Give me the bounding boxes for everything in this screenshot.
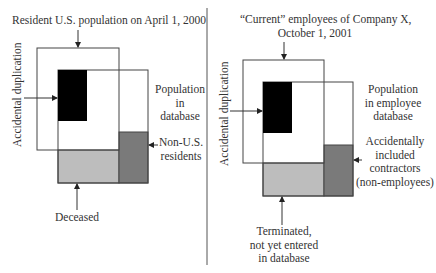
right-title: “Current” employees of Company X, Octobe… — [240, 13, 390, 40]
right-diagram — [230, 42, 362, 225]
left-nonus-label: Non-U.S. residents — [157, 136, 205, 163]
left-diagram — [24, 30, 158, 210]
left-deceased-label: Deceased — [52, 211, 102, 225]
right-light-gray-block — [263, 163, 324, 196]
left-dark-gray-block — [119, 132, 148, 183]
left-black-block — [58, 70, 87, 121]
left-title: Resident U.S. population on April 1, 200… — [12, 14, 206, 28]
left-side-label: Accidental duplication — [11, 43, 23, 147]
right-side-label: Accidental duplication — [218, 62, 230, 166]
left-database-label: Population in database — [155, 83, 205, 124]
right-dark-gray-block — [324, 145, 353, 196]
right-terminated-label: Terminated, not yet entered in database — [244, 225, 324, 266]
right-black-block — [263, 82, 292, 133]
right-database-label: Population in employee database — [358, 83, 428, 124]
right-contractors-label: Accidentally included contractors (non-e… — [355, 135, 435, 189]
left-light-gray-block — [58, 150, 119, 183]
